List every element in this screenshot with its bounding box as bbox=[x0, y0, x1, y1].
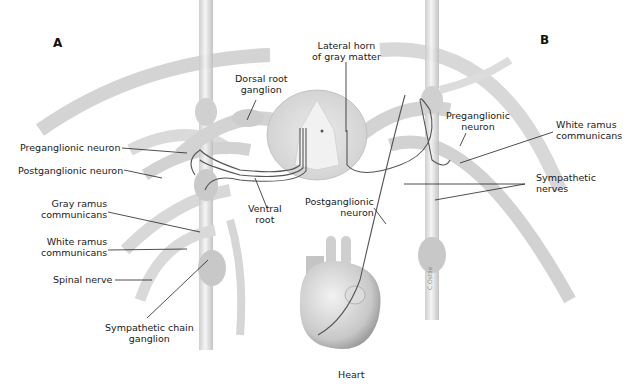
artist-signature: C.Ostlie bbox=[424, 267, 435, 290]
label-line: neuron bbox=[446, 121, 510, 132]
label-line: White ramus bbox=[41, 236, 107, 247]
label-dorsal-root-ganglion: Dorsal root ganglion bbox=[235, 73, 288, 95]
heart-illustration bbox=[300, 236, 381, 349]
label-line: of gray matter bbox=[312, 51, 381, 62]
panel-label-b: B bbox=[540, 33, 549, 47]
label-postganglionic-neuron-a: Postganglionic neuron bbox=[18, 165, 123, 176]
label-ventral-root: Ventral root bbox=[248, 203, 282, 225]
label-sympathetic-nerves: Sympathetic nerves bbox=[536, 172, 596, 194]
label-postganglionic-neuron-b: Postganglionic neuron bbox=[305, 196, 374, 218]
label-line: communicans bbox=[41, 247, 107, 258]
label-white-ramus-a: White ramus communicans bbox=[41, 236, 107, 258]
label-preganglionic-neuron-a: Preganglionic neuron bbox=[20, 142, 120, 153]
label-line: neuron bbox=[305, 207, 374, 218]
label-line: ganglion bbox=[105, 333, 194, 344]
label-line: Gray ramus bbox=[41, 198, 107, 209]
sympathetic-chain-right bbox=[380, 0, 570, 320]
label-preganglionic-neuron-b: Preganglionic neuron bbox=[446, 110, 510, 132]
label-gray-ramus: Gray ramus communicans bbox=[41, 198, 107, 220]
label-lateral-horn: Lateral horn of gray matter bbox=[312, 40, 381, 62]
label-white-ramus-b: White ramus communicans bbox=[556, 119, 622, 141]
spinal-cord bbox=[267, 90, 367, 180]
label-line: Postganglionic bbox=[305, 196, 374, 207]
label-line: Lateral horn bbox=[312, 40, 381, 51]
label-heart: Heart bbox=[338, 369, 364, 380]
label-line: Preganglionic bbox=[446, 110, 510, 121]
label-line: Dorsal root bbox=[235, 73, 288, 84]
panel-label-a: A bbox=[53, 36, 62, 50]
label-line: Ventral bbox=[248, 203, 282, 214]
label-line: ganglion bbox=[235, 84, 288, 95]
label-line: White ramus bbox=[556, 119, 622, 130]
label-line: communicans bbox=[41, 209, 107, 220]
label-line: communicans bbox=[556, 130, 622, 141]
label-sympathetic-chain-ganglion: Sympathetic chain ganglion bbox=[105, 322, 194, 344]
label-spinal-nerve: Spinal nerve bbox=[53, 274, 112, 285]
label-line: nerves bbox=[536, 183, 596, 194]
label-line: Sympathetic bbox=[536, 172, 596, 183]
label-line: Sympathetic chain bbox=[105, 322, 194, 333]
label-line: root bbox=[248, 214, 282, 225]
